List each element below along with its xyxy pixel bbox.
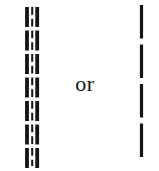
dashed-line-symbols-figure: or (0, 0, 159, 171)
or-separator-label: or (68, 69, 102, 99)
triple-dashed-line-symbol (27, 7, 37, 168)
